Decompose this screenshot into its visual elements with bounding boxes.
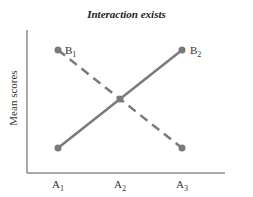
- data-point: [179, 145, 186, 152]
- data-point: [55, 145, 62, 152]
- plot-area: [0, 0, 253, 197]
- data-point: [55, 47, 62, 54]
- series-label-b2: B2: [190, 44, 201, 59]
- x-tick-a2: A2: [105, 178, 135, 193]
- data-point: [179, 47, 186, 54]
- series-label-b1: B1: [65, 44, 76, 59]
- x-tick-a1: A1: [43, 178, 73, 193]
- y-axis-label: Mean scores: [7, 63, 19, 133]
- x-tick-a3: A3: [167, 178, 197, 193]
- data-point: [117, 96, 124, 103]
